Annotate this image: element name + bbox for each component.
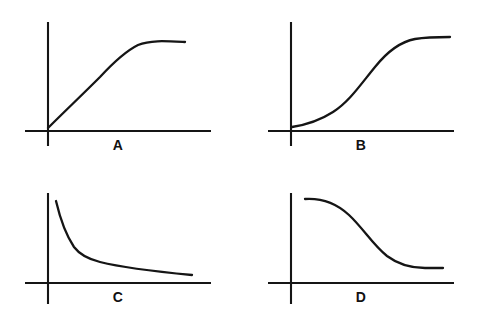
panel-a: A: [0, 0, 243, 163]
panel-b-curve: [292, 37, 450, 127]
four-panel-curve-figure: A B C D: [0, 0, 486, 326]
panel-c: C: [0, 163, 243, 326]
panel-d-label: D: [356, 289, 367, 305]
panel-b: B: [243, 0, 486, 163]
panel-a-label: A: [113, 137, 124, 153]
panel-d-curve: [305, 199, 443, 268]
panel-c-label: C: [113, 289, 124, 305]
panel-a-curve: [48, 41, 185, 128]
panel-c-curve: [56, 201, 192, 275]
panel-b-label: B: [356, 137, 367, 153]
panel-d: D: [243, 163, 486, 326]
